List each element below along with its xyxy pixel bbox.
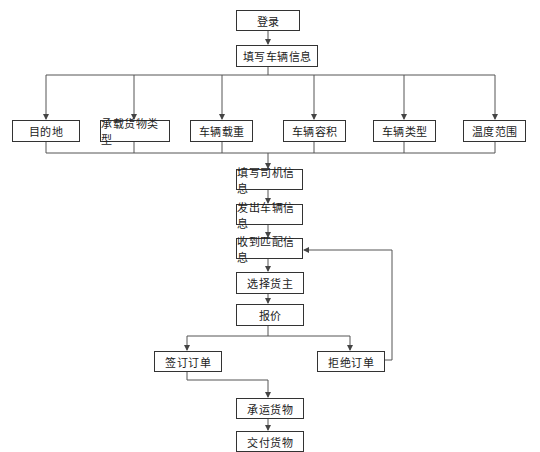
node-sign-order: 签订订单 [154, 351, 222, 372]
node-reject-order: 拒绝订单 [317, 351, 385, 372]
node-quote: 报价 [236, 304, 304, 326]
node-send-vehicle-info: 发出车辆信息 [236, 204, 303, 225]
node-select-shipper: 选择货主 [236, 272, 304, 294]
node-deliver-goods: 交付货物 [236, 431, 304, 452]
node-login: 登录 [236, 10, 300, 31]
node-temperature-range: 温度范围 [463, 120, 526, 142]
node-destination: 目的地 [12, 120, 80, 142]
node-receive-match-info: 收到匹配信息 [236, 238, 303, 259]
node-fill-vehicle-info: 填写车辆信息 [236, 45, 318, 67]
node-cargo-type: 承载货物类型 [100, 120, 170, 142]
node-vehicle-volume: 车辆容积 [283, 120, 346, 142]
node-carry-goods: 承运货物 [236, 398, 304, 419]
node-vehicle-type: 车辆类型 [373, 120, 436, 142]
node-vehicle-load: 车辆载重 [190, 120, 253, 142]
node-fill-driver-info: 填写司机信息 [236, 169, 303, 190]
